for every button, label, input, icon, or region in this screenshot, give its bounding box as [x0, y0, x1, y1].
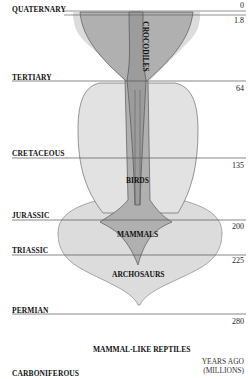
age-280: 280: [232, 317, 244, 326]
age-200: 200: [232, 222, 244, 231]
axis-label-line1: YEARS AGO: [202, 357, 244, 366]
phylogeny-diagram: [0, 0, 248, 379]
clade-label-crocodiles: CROCODILES: [141, 21, 150, 71]
period-label-tertiary: TERTIARY: [12, 73, 52, 82]
age-64: 64: [236, 84, 244, 93]
age-225: 225: [232, 256, 244, 265]
period-label-carboniferous: CARBONIFEROUS: [12, 369, 79, 378]
axis-label-line2: (MILLIONS): [202, 366, 244, 375]
clade-label-birds: BIRDS: [126, 176, 149, 185]
axis-label-years-ago: YEARS AGO (MILLIONS): [202, 357, 244, 375]
period-label-quaternary: QUATERNARY: [12, 5, 66, 14]
period-label-triassic: TRIASSIC: [12, 246, 48, 255]
age-1-8: 1.8: [234, 16, 244, 25]
clade-label-archosaurs: ARCHOSAURS: [112, 270, 165, 279]
period-label-cretaceous: CRETACEOUS: [12, 149, 65, 158]
age-135: 135: [232, 161, 244, 170]
age-0: 0: [240, 1, 244, 10]
period-label-jurassic: JURASSIC: [12, 211, 49, 220]
clade-label-mammals: MAMMALS: [117, 230, 158, 239]
period-label-permian: PERMIAN: [12, 306, 49, 315]
clade-label-mammal-like-reptiles: MAMMAL-LIKE REPTILES: [93, 345, 190, 354]
